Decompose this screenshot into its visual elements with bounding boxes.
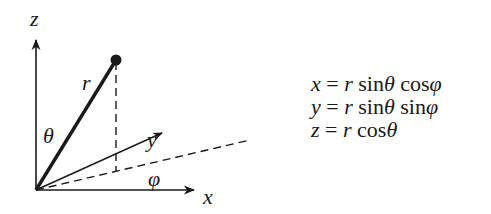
point-marker: [111, 55, 122, 66]
phi-label: φ: [148, 166, 160, 191]
radius-label: r: [82, 70, 91, 95]
y-axis-label: y: [145, 127, 157, 152]
equation-z: z = r cosθ: [311, 118, 442, 141]
theta-label: θ: [43, 123, 54, 148]
x-axis-label: x: [202, 184, 213, 209]
projection-line: [36, 140, 250, 190]
z-axis-label: z: [29, 6, 39, 31]
equation-y: y = r sinθ sinφ: [311, 95, 442, 118]
conversion-equations: x = r sinθ cosφ y = r sinθ sinφ z = r co…: [311, 72, 442, 141]
equation-x: x = r sinθ cosφ: [311, 72, 442, 95]
